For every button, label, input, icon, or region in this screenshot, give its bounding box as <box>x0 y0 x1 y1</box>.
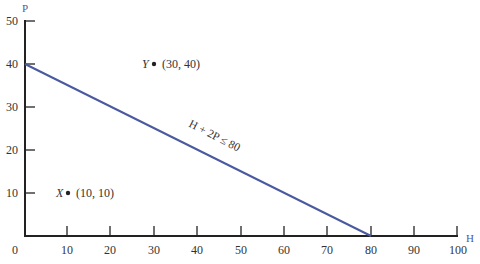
constraint-chart: 50 40 30 20 10 0 10 20 30 40 50 60 70 80… <box>0 0 480 264</box>
point-x-marker <box>66 191 70 195</box>
y-tick-label: 50 <box>6 14 18 28</box>
point-x: X (10, 10) <box>55 186 114 200</box>
x-tick-label: 90 <box>408 243 420 257</box>
point-x-coords: (10, 10) <box>76 186 114 200</box>
x-axis-name: H <box>466 232 474 244</box>
x-tick-labels: 0 10 20 30 40 50 60 70 80 90 100 <box>12 243 467 257</box>
x-tick-label: 50 <box>235 243 247 257</box>
x-tick-label: 40 <box>191 243 203 257</box>
y-ticks <box>25 21 35 193</box>
x-tick-label: 100 <box>449 243 467 257</box>
y-tick-labels: 50 40 30 20 10 <box>6 14 18 200</box>
x-tick-label: 70 <box>321 243 333 257</box>
point-y: Y (30, 40) <box>142 57 200 71</box>
y-tick-label: 10 <box>6 186 18 200</box>
point-y-name: Y <box>142 57 150 71</box>
y-tick-label: 20 <box>6 143 18 157</box>
x-tick-label: 30 <box>148 243 160 257</box>
point-y-coords: (30, 40) <box>162 57 200 71</box>
y-tick-label: 40 <box>6 57 18 71</box>
y-tick-label: 30 <box>6 100 18 114</box>
point-y-marker <box>152 62 156 66</box>
x-tick-label: 60 <box>278 243 290 257</box>
x-tick-label: 80 <box>365 243 377 257</box>
y-axis-name: P <box>22 2 28 14</box>
x-tick-label: 20 <box>104 243 116 257</box>
constraint-line <box>25 64 371 236</box>
x-tick-label: 10 <box>61 243 73 257</box>
axes <box>24 20 458 237</box>
point-x-name: X <box>55 186 64 200</box>
x-ticks <box>67 226 457 236</box>
origin-label: 0 <box>12 243 18 257</box>
